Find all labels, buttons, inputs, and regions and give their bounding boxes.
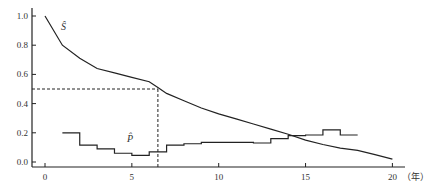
x-tick-label: 15 bbox=[301, 172, 311, 182]
x-unit-label: （年） bbox=[402, 171, 429, 182]
y-tick-label: 0.4 bbox=[17, 99, 29, 109]
s-hat-label: Ŝ bbox=[61, 21, 66, 32]
x-tick-label: 20 bbox=[388, 172, 398, 182]
p-hat-label: P̂ bbox=[126, 132, 133, 144]
y-tick-label: 0.2 bbox=[17, 128, 28, 138]
y-tick-label: 0.0 bbox=[17, 157, 29, 167]
y-tick-label: 1.0 bbox=[17, 11, 29, 21]
series bbox=[45, 16, 392, 159]
x-tick-label: 5 bbox=[130, 172, 135, 182]
s-hat-curve bbox=[45, 16, 392, 159]
survival-chart: 0.00.20.40.60.81.005101520 Ŝ P̂ （年） bbox=[0, 0, 436, 196]
x-tick-label: 0 bbox=[43, 172, 48, 182]
y-tick-label: 0.6 bbox=[17, 69, 29, 79]
y-tick-label: 0.8 bbox=[17, 40, 29, 50]
x-tick-label: 10 bbox=[214, 172, 224, 182]
ticks: 0.00.20.40.60.81.005101520 bbox=[17, 11, 398, 182]
axes bbox=[32, 8, 405, 167]
